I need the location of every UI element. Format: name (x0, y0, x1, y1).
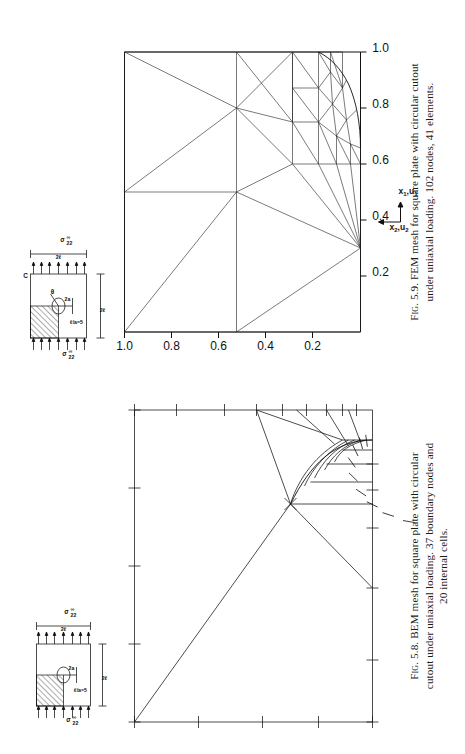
figure-5-9: σ 22 ∞ σ 22 ∞ ℓ/a=5 2ℓ 2ℓ 2a θ C (0, 8, 465, 376)
y-tick-0-4: 0.4 (257, 339, 274, 353)
fig-5-9-sigma-label: σ (62, 350, 67, 357)
figure-5-8: σ 22 ∞ σ 22 ∞ ℓ/a=5 2ℓ 2ℓ 2a (0, 386, 465, 746)
fig-5-9-sigma-sup: ∞ (68, 348, 72, 354)
fig-5-9-fem-mesh: 0.2 0.4 0.6 0.8 1.0 0.2 0.4 0.6 0.8 1.0 (112, 12, 416, 372)
fem-x-tick-labels: 0.2 0.4 0.6 0.8 1.0 (372, 41, 389, 279)
fig-5-8-sigma-sup: ∞ (72, 714, 76, 720)
fig-5-9-hole-dim: 2a (64, 296, 70, 302)
fig-5-9-caption-line-1: FEM mesh for square plate with circular … (407, 63, 419, 280)
fig-5-8-caption-line-2: cutout under uniaxial loading. 37 bounda… (421, 386, 436, 746)
rotated-page-content: σ 22 ∞ σ 22 ∞ ℓ/a=5 2ℓ 2ℓ 2a (0, 0, 465, 754)
fig-5-9-number: Fig. 5.9. (407, 283, 419, 321)
fig-5-8-ratio-label: ℓ/a=5 (73, 687, 87, 693)
fig-5-8-sigma-label-right: σ (64, 608, 69, 615)
fig-5-8-caption: Fig. 5.8. BEM mesh for square plate with… (406, 386, 450, 746)
y-tick-1-0: 1.0 (116, 339, 133, 353)
fig-5-8-number: Fig. 5.8. (407, 642, 419, 680)
fig-5-9-caption-line-2: under uniaxial loading. 102 nodes, 41 el… (421, 8, 436, 376)
fig-5-9-height-dim: 2ℓ (55, 254, 61, 260)
fig-5-8-sigma-sub-right: 22 (70, 612, 76, 618)
fig-5-8-width-dim: 2ℓ (101, 675, 107, 681)
fig-5-9-sigma-sub: 22 (68, 354, 74, 360)
fig-5-9-caption: Fig. 5.9. FEM mesh for square plate with… (406, 8, 435, 376)
y-tick-0-8: 0.8 (163, 339, 180, 353)
fem-axis-ticks (124, 52, 366, 338)
scanned-page: σ 22 ∞ σ 22 ∞ ℓ/a=5 2ℓ 2ℓ 2a (0, 0, 465, 754)
fem-element-edges (124, 52, 360, 332)
fig-5-9-sigma-sup-right: ∞ (66, 234, 70, 240)
fig-5-9-point-c-label: C (23, 272, 28, 279)
fig-5-9-width-dim: 2ℓ (99, 307, 105, 313)
x-tick-0-2: 0.2 (372, 265, 389, 279)
fig-5-8-bem-mesh (120, 394, 396, 740)
fig-5-9-sigma-label-right: σ (60, 236, 65, 243)
hole-boundary-arc (318, 52, 360, 148)
fig-5-8-sigma-sub: 22 (72, 720, 78, 726)
fig-5-8-caption-line-1: BEM mesh for square plate with circular (407, 452, 419, 639)
y-tick-0-6: 0.6 (210, 339, 227, 353)
fig-5-8-sigma-label: σ (66, 716, 71, 723)
fig-5-9-theta-label: θ (50, 288, 54, 295)
fig-5-8-hole-dim: 2a (68, 665, 74, 671)
fem-y-tick-labels: 0.2 0.4 0.6 0.8 1.0 (116, 339, 321, 353)
x-tick-0-6: 0.6 (372, 153, 389, 167)
x-tick-0-8: 0.8 (372, 97, 389, 111)
fig-5-9-ratio-label: ℓ/a=5 (69, 319, 83, 325)
fig-5-9-sigma-sub-right: 22 (66, 240, 72, 246)
y-tick-0-2: 0.2 (304, 339, 321, 353)
fig-5-8-inset-schematic: σ 22 ∞ σ 22 ∞ ℓ/a=5 2ℓ 2ℓ 2a (18, 600, 114, 732)
x-tick-1-0: 1.0 (372, 41, 389, 55)
fig-5-8-caption-line-3: 20 internal cells. (435, 386, 450, 746)
fig-5-9-inset-schematic: σ 22 ∞ σ 22 ∞ ℓ/a=5 2ℓ 2ℓ 2a θ C (14, 224, 114, 364)
fig-5-8-sigma-sup-right: ∞ (70, 606, 74, 612)
fig-5-8-boundary-nodes (128, 404, 414, 728)
fig-5-8-height-dim: 2ℓ (60, 626, 66, 632)
